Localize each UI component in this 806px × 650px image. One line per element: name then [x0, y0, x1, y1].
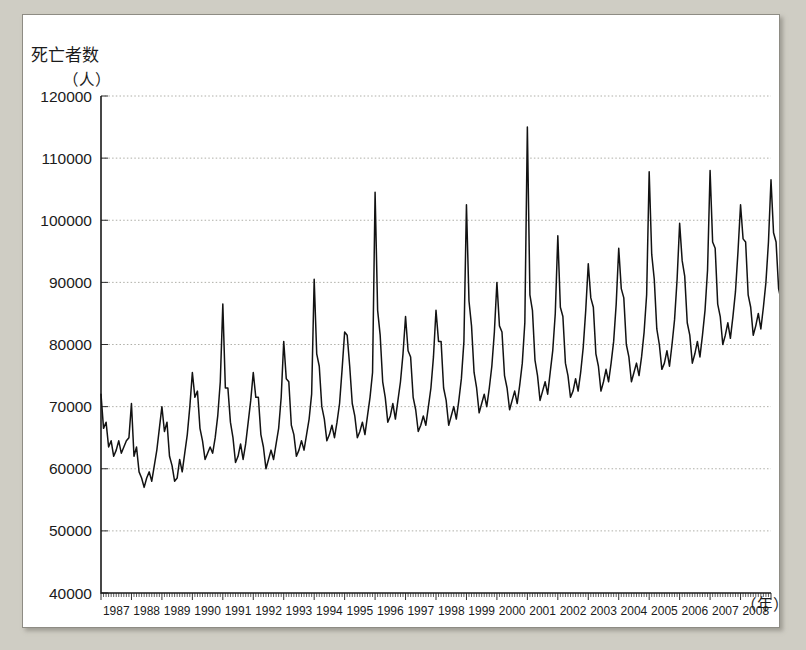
x-axis-tick-label: 1995: [347, 604, 374, 618]
x-axis-tick-label: 1987: [103, 604, 130, 618]
x-axis-tick-label: 1992: [255, 604, 282, 618]
x-axis-tick-label: 1994: [316, 604, 343, 618]
y-axis-tick-label: 70000: [49, 398, 92, 415]
x-axis-tick-label: 2000: [499, 604, 526, 618]
x-axis-tick-label: 2001: [529, 604, 556, 618]
chart-area: 死亡者数 （人） （年） 400005000060000700008000090…: [23, 15, 779, 627]
y-axis-tick-label: 110000: [41, 150, 92, 167]
x-axis-tick-label: 2004: [621, 604, 648, 618]
deaths-series-line: [101, 127, 779, 487]
y-axis-tick-label: 60000: [49, 460, 92, 477]
y-axis-tick-label: 50000: [49, 522, 92, 539]
y-axis-ticks: [101, 96, 108, 593]
x-axis-tick-label: 2005: [651, 604, 678, 618]
y-axis-title: 死亡者数: [31, 46, 99, 65]
x-axis-tick-labels: 1987198819891990199119921993199419951996…: [103, 604, 770, 618]
x-axis-tick-label: 2003: [590, 604, 617, 618]
x-axis-tick-label: 1993: [286, 604, 313, 618]
y-axis-tick-label: 80000: [49, 336, 92, 353]
y-axis-tick-label: 90000: [49, 274, 92, 291]
x-axis-tick-label: 1997: [407, 604, 434, 618]
x-axis-tick-label: 2007: [712, 604, 739, 618]
figure-panel: 死亡者数 （人） （年） 400005000060000700008000090…: [22, 14, 780, 628]
line-chart: 死亡者数 （人） （年） 400005000060000700008000090…: [23, 15, 779, 627]
x-axis-tick-label: 2006: [682, 604, 709, 618]
x-axis-tick-label: 2002: [560, 604, 587, 618]
x-axis-tick-label: 2008: [742, 604, 769, 618]
y-axis-unit: （人）: [63, 71, 111, 88]
x-axis-tick-label: 1998: [438, 604, 465, 618]
x-axis-tick-label: 1988: [133, 604, 160, 618]
y-axis-tick-label: 100000: [40, 212, 92, 229]
y-axis-tick-labels: 4000050000600007000080000900001000001100…: [40, 88, 92, 602]
x-axis-tick-label: 1996: [377, 604, 404, 618]
y-axis-tick-label: 40000: [49, 585, 92, 602]
y-axis-tick-label: 120000: [40, 88, 92, 105]
x-axis-tick-label: 1989: [164, 604, 191, 618]
x-axis-tick-label: 1991: [225, 604, 252, 618]
x-axis-tick-label: 1999: [468, 604, 495, 618]
x-axis-tick-label: 1990: [194, 604, 221, 618]
x-axis-ticks: [101, 593, 771, 600]
scanned-page-background: 死亡者数 （人） （年） 400005000060000700008000090…: [0, 0, 806, 650]
